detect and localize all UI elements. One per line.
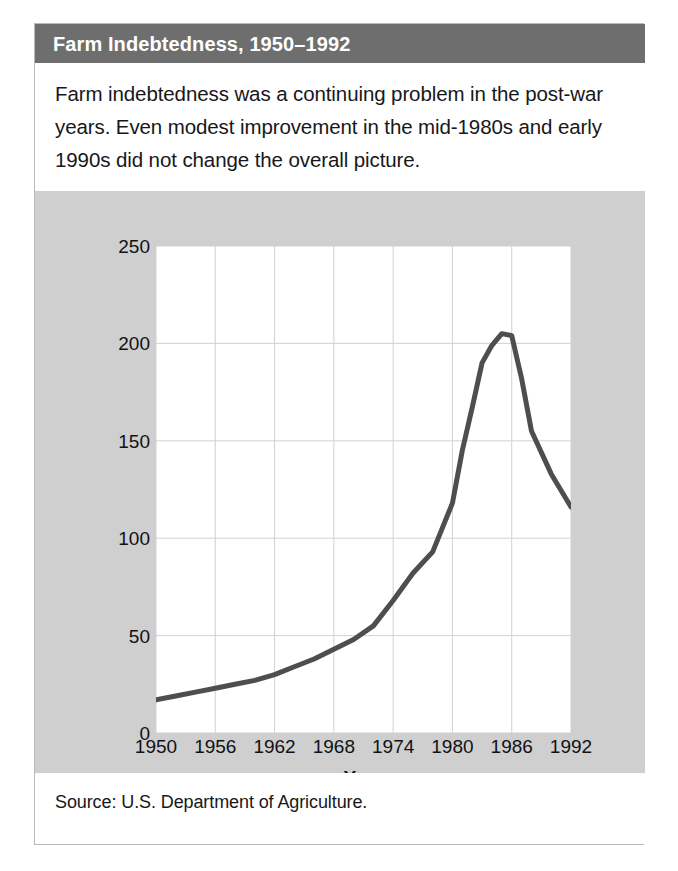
line-chart-svg	[156, 246, 571, 733]
figure-caption: Farm indebtedness was a continuing probl…	[55, 77, 627, 176]
plot-area	[156, 246, 571, 733]
grid-lines	[156, 246, 571, 733]
figure-source-block: Source: U.S. Department of Agriculture.	[35, 773, 645, 844]
data-series-line	[156, 334, 571, 700]
figure-title: Farm Indebtedness, 1950–1992	[53, 33, 350, 56]
x-axis-tick-label: 1992	[531, 737, 611, 756]
figure-source: Source: U.S. Department of Agriculture.	[55, 792, 367, 813]
figure-title-bar: Farm Indebtedness, 1950–1992	[35, 24, 645, 63]
data-line-group	[156, 334, 571, 700]
y-axis-title-holder: Billions of dollars	[127, 246, 147, 733]
figure-frame: Farm Indebtedness, 1950–1992 Farm indebt…	[34, 23, 644, 845]
x-axis-tick-labels: 19501956196219681974198019861992	[156, 737, 571, 767]
figure-caption-block: Farm indebtedness was a continuing probl…	[35, 63, 645, 191]
chart-panel: 050100150200250 Billions of dollars 1950…	[35, 191, 645, 773]
